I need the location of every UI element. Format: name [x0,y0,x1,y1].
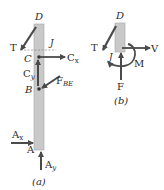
label-j-a: J [48,38,55,48]
label-f: F [117,81,124,92]
label-cx: Cx [67,52,79,65]
pin-b [37,87,41,91]
label-t-b: T [91,42,98,53]
panel-a: D T J C Cx Cy B FBE Ax A Ay (a) [10,11,79,187]
label-d-a: D [34,11,43,22]
label-b-a: B [24,84,32,95]
label-j-b: J [107,52,114,62]
label-fbe: FBE [56,75,73,88]
label-t-a: T [10,42,17,53]
label-a: A [26,144,35,155]
panel-b: D T J V M F (b) [91,10,159,106]
label-ay: Ay [44,159,57,172]
free-body-diagram: D T J C Cx Cy B FBE Ax A Ay (a) [0,0,164,190]
caption-a: (a) [32,176,46,187]
label-d-b: D [115,10,124,21]
label-v: V [150,43,159,54]
caption-b: (b) [114,95,128,106]
force-t-arrow-b [103,26,116,50]
label-m: M [134,58,144,69]
label-ax: Ax [11,129,23,142]
label-c-a: C [24,53,32,64]
